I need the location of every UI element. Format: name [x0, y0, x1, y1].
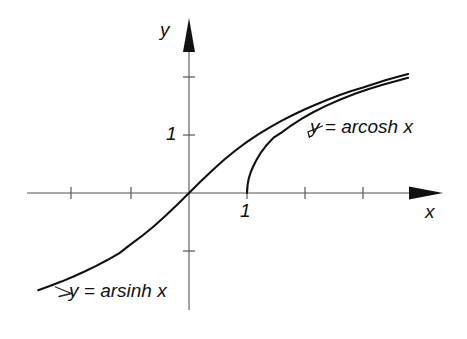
- y-axis-tick-label-1: 1: [166, 124, 177, 143]
- y-axis-label: y: [160, 20, 170, 39]
- arrow-up-icon: [183, 18, 195, 52]
- curve-label-arcosh: y = arcosh x: [310, 117, 413, 136]
- curve-arsinh: [38, 74, 408, 290]
- curve-label-arsinh: y = arsinh x: [69, 281, 167, 300]
- arrow-right-icon: [409, 187, 443, 200]
- inverse-hyperbolic-functions-figure: y x 1 1 y = arcosh x y = arsinh x: [0, 0, 467, 339]
- x-axis-tick-label-1: 1: [240, 201, 251, 220]
- x-axis-label: x: [425, 202, 435, 221]
